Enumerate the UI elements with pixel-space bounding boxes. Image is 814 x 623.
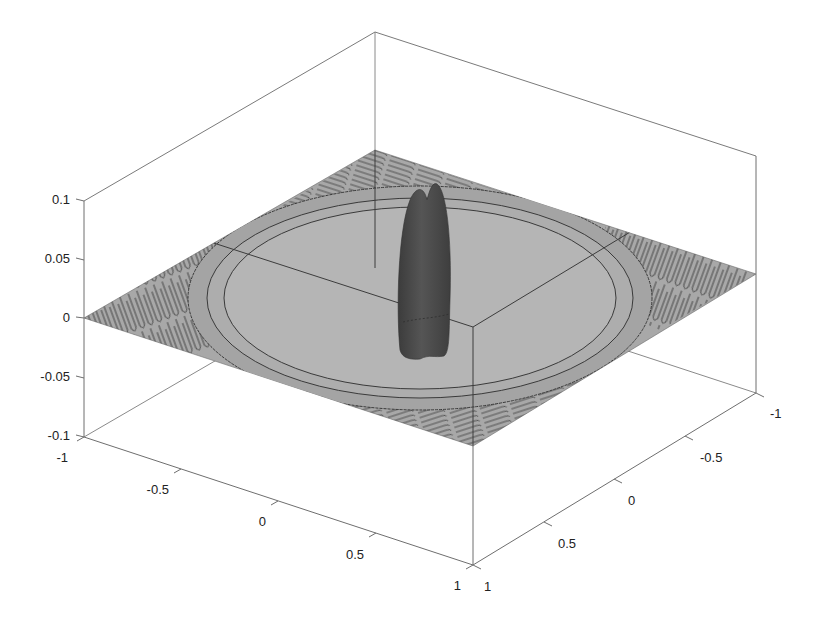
z-tick-label: 0.05	[45, 251, 70, 266]
z-tick-label: -0.05	[40, 369, 70, 384]
x-tick-label: -1	[56, 450, 68, 465]
surface-plot-3d: 0.1 0.05 0 -0.05 -0.1 -1 -0.5 0 0.5 1 1 …	[0, 0, 814, 623]
z-axis	[76, 199, 84, 437]
z-tick-label: 0.1	[52, 192, 70, 207]
z-tick-label: -0.1	[48, 428, 70, 443]
x-tick-label: 1	[454, 578, 461, 593]
y-tick-label: -0.5	[700, 450, 722, 465]
y-tick-label: -1	[770, 406, 782, 421]
x-tick-label: 0	[259, 514, 266, 529]
x-tick-label: -0.5	[147, 482, 169, 497]
x-tick-label: 0.5	[346, 547, 364, 562]
y-tick-label: 0.5	[558, 536, 576, 551]
x-axis	[77, 437, 473, 569]
y-tick-label: 0	[628, 493, 635, 508]
y-tick-label: 1	[484, 579, 491, 594]
z-tick-label: 0	[63, 310, 70, 325]
